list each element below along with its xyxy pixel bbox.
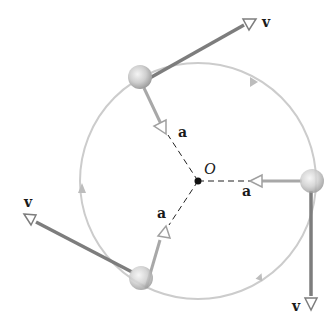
acceleration-label-bottom: a xyxy=(157,205,166,221)
circular-motion-diagram: O v v v a a a xyxy=(0,0,336,324)
arrowhead-icon xyxy=(24,214,36,225)
particle-top xyxy=(128,65,152,89)
velocity-vector-right xyxy=(305,191,317,310)
radius-lines xyxy=(168,135,250,225)
arrowhead-icon xyxy=(305,298,317,310)
acceleration-vector-right xyxy=(250,175,302,187)
arrowhead-icon xyxy=(158,226,170,238)
particle-right xyxy=(300,169,324,193)
acceleration-vector-top xyxy=(144,88,166,134)
center-point xyxy=(195,178,202,185)
acceleration-label-top: a xyxy=(178,124,187,140)
acceleration-label-right: a xyxy=(242,183,251,199)
velocity-label-left: v xyxy=(23,194,33,210)
particle-bottom xyxy=(129,266,153,290)
velocity-label-right: v xyxy=(291,298,301,314)
arrowhead-icon xyxy=(243,19,256,30)
velocity-vector-left xyxy=(24,214,132,272)
arrowhead-icon xyxy=(250,175,262,187)
origin-label: O xyxy=(204,160,216,177)
velocity-label-top: v xyxy=(261,14,271,30)
